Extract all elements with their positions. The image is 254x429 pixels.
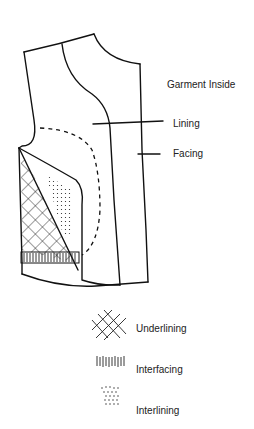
garment-diagram: Garment Inside Lining Facing Underlining… xyxy=(0,0,254,429)
legend: Underlining Interfacing Interlining xyxy=(92,310,187,416)
dots-icon xyxy=(101,386,118,404)
lining-leader-line xyxy=(93,121,163,124)
legend-underlining: Underlining xyxy=(136,323,187,334)
vertical-lines-icon xyxy=(97,356,124,367)
callout-lining: Lining xyxy=(173,118,200,129)
legend-interlining: Interlining xyxy=(136,405,179,416)
legend-interfacing: Interfacing xyxy=(136,364,183,375)
callout-facing: Facing xyxy=(173,148,203,159)
diagram-title: Garment Inside xyxy=(167,79,236,90)
crosshatch-icon xyxy=(92,310,126,340)
